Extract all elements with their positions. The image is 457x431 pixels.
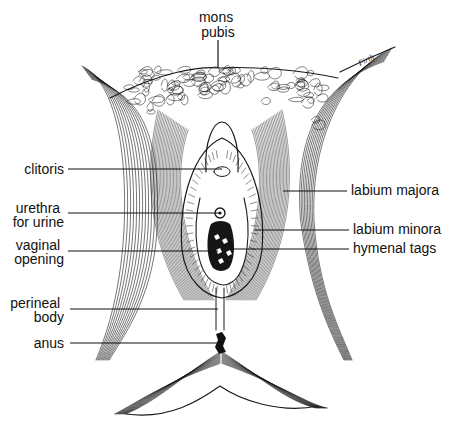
thigh-line bbox=[308, 54, 389, 360]
majora-hatch-left bbox=[179, 129, 212, 300]
minora-hatch bbox=[242, 168, 246, 173]
minora-hatch bbox=[250, 202, 256, 204]
minora-hatch bbox=[230, 153, 232, 160]
thigh-line bbox=[85, 70, 134, 360]
label-perineal-body: perineal body bbox=[10, 295, 64, 325]
hair-curl bbox=[240, 74, 251, 86]
illustration: Firth bbox=[82, 47, 395, 415]
hair-curl bbox=[167, 93, 182, 101]
hair-curl bbox=[148, 96, 164, 103]
minora-hatch bbox=[191, 187, 197, 191]
label-labium-minora: labium minora bbox=[353, 221, 441, 237]
minora-hatch bbox=[205, 279, 208, 285]
majora-hatch-right bbox=[229, 128, 262, 300]
thigh-line bbox=[304, 57, 386, 360]
minora-hatch bbox=[187, 240, 193, 242]
minora-hatch bbox=[201, 163, 205, 169]
minora-hatch bbox=[227, 286, 228, 293]
thigh-line bbox=[309, 53, 389, 361]
hair-curl bbox=[126, 99, 140, 105]
hair-curl bbox=[268, 83, 280, 91]
minora-hatch bbox=[248, 187, 254, 191]
hair-curl bbox=[261, 97, 270, 104]
thigh-line bbox=[91, 78, 155, 360]
minora-hatch bbox=[239, 163, 243, 169]
minora-hatch bbox=[216, 151, 217, 158]
buttocks-drawing bbox=[115, 352, 328, 415]
majora-hatch-right bbox=[227, 129, 260, 300]
label-labium-majora: labium majora bbox=[351, 182, 439, 198]
label-clitoris: clitoris bbox=[24, 161, 64, 177]
minora-hatch bbox=[227, 151, 228, 158]
label-hymenal-tags: hymenal tags bbox=[353, 240, 436, 256]
minora-hatch bbox=[187, 233, 193, 234]
hair-curl bbox=[309, 79, 320, 87]
hair-curl bbox=[177, 74, 190, 82]
pubic-hair-region bbox=[110, 66, 338, 130]
hair-curl bbox=[147, 110, 156, 114]
diagram-canvas: Firth mons pubis clitoris urethra for ur… bbox=[0, 0, 457, 431]
thigh-line bbox=[303, 59, 386, 361]
majora-hatch-right bbox=[232, 126, 265, 300]
thigh-line bbox=[311, 51, 391, 360]
minora-hatch bbox=[209, 282, 211, 289]
hair-curl bbox=[139, 75, 152, 87]
thigh-line bbox=[92, 79, 158, 360]
buttock-crease bbox=[126, 386, 318, 415]
minora-hatch bbox=[193, 180, 198, 184]
minora-hatch bbox=[187, 202, 193, 204]
anatomy-diagram: Firth mons pubis clitoris urethra for ur… bbox=[0, 0, 457, 431]
hair-curl bbox=[203, 74, 214, 83]
thigh-line bbox=[86, 71, 137, 360]
minora-hatch bbox=[212, 284, 214, 291]
label-urethra: urethra for urine bbox=[13, 200, 65, 230]
minora-hatch bbox=[233, 155, 235, 162]
minora-hatch bbox=[195, 174, 200, 179]
hair-curl bbox=[316, 94, 328, 102]
thigh-line bbox=[312, 50, 391, 361]
minora-hatch bbox=[209, 155, 211, 162]
minora-hatch bbox=[212, 153, 214, 160]
clitoris-glans bbox=[214, 167, 230, 177]
minora-hatch bbox=[249, 194, 255, 197]
label-vaginal-opening: vaginal opening bbox=[14, 237, 64, 267]
minora-hatch bbox=[230, 284, 232, 291]
minora-hatch bbox=[189, 194, 195, 197]
hair-curl bbox=[261, 67, 268, 74]
clitoral-hood bbox=[206, 122, 239, 172]
minora-hatch bbox=[216, 286, 217, 293]
hair-curl bbox=[254, 72, 270, 80]
minora-hatch bbox=[251, 210, 257, 211]
label-mons-pubis: mons pubis bbox=[199, 9, 237, 40]
label-anus: anus bbox=[34, 335, 64, 351]
hair-curl bbox=[161, 79, 167, 91]
minora-hatch bbox=[246, 180, 251, 184]
minora-hatch bbox=[187, 210, 193, 211]
hair-curl bbox=[288, 97, 303, 101]
hair-curl bbox=[154, 66, 161, 74]
minora-hatch bbox=[244, 174, 249, 179]
